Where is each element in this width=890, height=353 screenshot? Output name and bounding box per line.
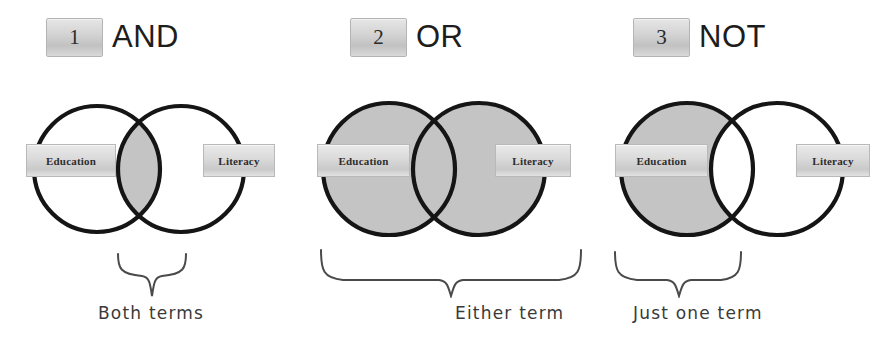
- panel-and-number-badge: 1: [46, 18, 103, 57]
- panel-not-heading: 3 NOT: [633, 18, 766, 57]
- panel-not-operator-label: NOT: [699, 21, 766, 54]
- term-chip-education: Education: [26, 144, 116, 177]
- panel-and-operator-label: AND: [112, 21, 179, 54]
- caption-just-one-term: Just one term: [633, 303, 763, 323]
- caption-both-terms: Both terms: [98, 303, 204, 323]
- panel-or-number-badge: 2: [350, 18, 407, 57]
- brace-and: [112, 252, 192, 298]
- brace-or: [317, 248, 585, 298]
- panel-or-operator-label: OR: [416, 21, 464, 54]
- panel-not: 3 NOT Education Literacy Just on: [593, 0, 890, 353]
- term-chip-literacy: Literacy: [495, 144, 571, 177]
- brace-not: [611, 250, 747, 298]
- term-chip-education: Education: [317, 144, 410, 177]
- term-chip-literacy: Literacy: [796, 144, 870, 177]
- panel-or: 2 OR Education Literacy Either term: [295, 0, 595, 353]
- panel-and: 1 AND Education Literacy Both terms: [0, 0, 300, 353]
- panel-or-heading: 2 OR: [350, 18, 464, 57]
- panel-not-number-badge: 3: [633, 18, 690, 57]
- panel-and-heading: 1 AND: [46, 18, 179, 57]
- term-chip-literacy: Literacy: [203, 144, 275, 177]
- caption-either-term: Either term: [455, 303, 564, 323]
- boolean-operators-figure: 1 AND Education Literacy Both terms: [0, 0, 890, 353]
- term-chip-education: Education: [615, 144, 708, 177]
